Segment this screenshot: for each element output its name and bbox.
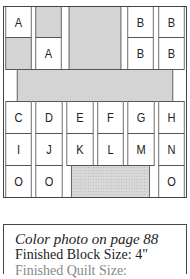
patch-d: D — [35, 101, 62, 134]
color-photo-reference: Color photo on page 88 — [15, 231, 186, 247]
patch-h: H — [158, 101, 184, 134]
finished-quilt-size: Finished Quilt Size: — [15, 263, 186, 279]
caption-box: Color photo on page 88 Finished Block Si… — [3, 224, 187, 274]
patch-f: F — [97, 101, 123, 134]
patch-horizontal-band — [17, 69, 173, 102]
patch-o: O — [158, 165, 184, 198]
patch-i: I — [5, 133, 31, 166]
patch-a: A — [35, 37, 61, 70]
patch-e: E — [66, 101, 93, 134]
patch-m: M — [127, 133, 154, 166]
patch-background — [5, 37, 31, 70]
quilt-block-diagram: A B B A B B C D E F G H I J K L M N O O … — [3, 6, 187, 198]
patch-g: G — [127, 101, 154, 134]
patch-b: B — [127, 37, 153, 70]
patch-center-square — [69, 6, 122, 70]
patch-c: C — [5, 101, 31, 134]
patch-o: O — [35, 165, 62, 198]
patch-l: L — [97, 133, 123, 166]
patch-b: B — [158, 37, 184, 70]
patch-b: B — [127, 6, 153, 38]
finished-block-size: Finished Block Size: 4" — [15, 247, 186, 263]
patch-j: J — [35, 133, 62, 166]
patch-a: A — [5, 6, 31, 38]
patch-o: O — [5, 165, 31, 198]
patch-speckled-fabric — [71, 165, 150, 198]
patch-b: B — [158, 6, 184, 38]
patch-background — [35, 6, 61, 38]
patch-n: N — [158, 133, 184, 166]
patch-k: K — [66, 133, 93, 166]
